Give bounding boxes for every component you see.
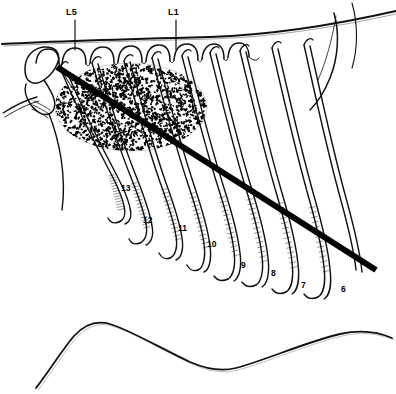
rib-label-11: 11	[178, 224, 187, 233]
diagonal-reference-line	[57, 67, 376, 270]
ventral-contour	[36, 323, 394, 390]
rib-label-6: 6	[341, 285, 346, 294]
diagram-canvas	[0, 0, 396, 394]
vertebra-label-l1: L1	[168, 8, 179, 17]
scapula	[310, 3, 357, 110]
rib-cage	[60, 39, 362, 299]
vertebra-label-l5: L5	[66, 8, 77, 17]
rib-label-8: 8	[271, 269, 276, 278]
rib-label-9: 9	[241, 261, 246, 270]
rib-label-13: 13	[121, 184, 130, 193]
anatomical-diagram: L5L1 131211109876	[0, 0, 396, 394]
rib-label-7: 7	[301, 281, 306, 290]
rib-label-12: 12	[143, 216, 152, 225]
rib-label-10: 10	[207, 240, 216, 249]
spinous-processes	[36, 43, 259, 66]
